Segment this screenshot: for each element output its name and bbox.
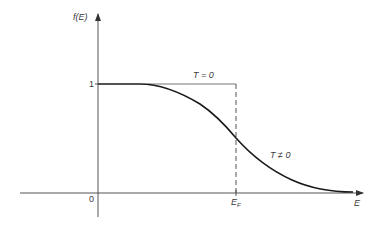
t-zero-label: T = 0 — [193, 71, 214, 80]
y-axis-label: f(E) — [73, 13, 88, 22]
t-nonzero-curve — [98, 84, 353, 192]
fermi-energy-label: EF — [231, 198, 241, 208]
origin-label: 0 — [89, 195, 94, 204]
y-tick-label-one: 1 — [89, 80, 94, 89]
diagram-svg — [0, 0, 381, 233]
fermi-dirac-diagram: f(E) 1 T = 0 T ≠ 0 0 EF E — [0, 0, 381, 233]
fermi-energy-label-sub: F — [237, 202, 241, 208]
x-axis-label: E — [354, 199, 360, 208]
t-nonzero-label: T ≠ 0 — [270, 151, 290, 160]
